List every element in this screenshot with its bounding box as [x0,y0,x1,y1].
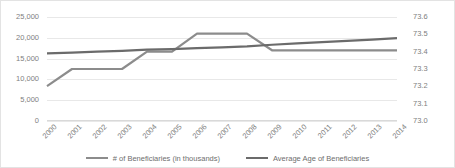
legend-label: Average Age of Beneficiaries [273,155,369,163]
chart-legend: # of Beneficiaries (in thousands)Average… [1,155,454,163]
left-y-tick-label: 20,000 [16,34,39,42]
x-tick-label: 2007 [216,123,233,140]
legend-swatch-icon [246,157,268,159]
left-y-tick-label: 0 [35,117,39,125]
x-tick-label: 2012 [341,123,358,140]
left-y-axis: 05,00010,00015,00020,00025,000 [1,17,43,121]
x-tick-label: 2005 [166,123,183,140]
plot-area [47,17,397,121]
x-tick-label: 2014 [391,123,408,140]
gridline [47,121,397,122]
x-tick-label: 2010 [291,123,308,140]
x-tick-label: 2002 [91,123,108,140]
right-y-tick-label: 73.0 [413,117,428,125]
chart-container: 05,00010,00015,00020,00025,000 73.073.17… [0,0,455,168]
x-tick-label: 2004 [141,123,158,140]
right-y-axis: 73.073.173.273.373.473.573.6 [408,17,454,121]
right-y-tick-label: 73.2 [413,83,428,91]
legend-item[interactable]: # of Beneficiaries (in thousands) [86,155,220,163]
x-axis-baseline [47,120,397,121]
x-axis: 2000200120022003200420052006200720082009… [47,123,397,153]
left-y-tick-label: 25,000 [16,13,39,21]
x-tick-label: 2008 [241,123,258,140]
x-tick-label: 2013 [366,123,383,140]
right-y-tick-label: 73.5 [413,31,428,39]
x-tick-label: 2001 [66,123,83,140]
legend-swatch-icon [86,157,108,159]
right-y-tick-label: 73.3 [413,65,428,73]
right-y-tick-label: 73.6 [413,13,428,21]
series-layer [47,17,397,121]
left-y-tick-label: 10,000 [16,76,39,84]
legend-label: # of Beneficiaries (in thousands) [113,155,220,163]
legend-item[interactable]: Average Age of Beneficiaries [246,155,369,163]
x-tick-label: 2009 [266,123,283,140]
x-tick-label: 2000 [41,123,58,140]
right-y-tick-label: 73.4 [413,48,428,56]
x-tick-label: 2003 [116,123,133,140]
x-tick-label: 2011 [317,123,334,140]
left-y-tick-label: 5,000 [20,96,39,104]
x-tick-label: 2006 [191,123,208,140]
right-y-tick-label: 73.1 [413,100,428,108]
left-y-tick-label: 15,000 [16,55,39,63]
